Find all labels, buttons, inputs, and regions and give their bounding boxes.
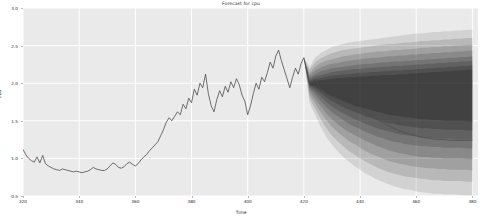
y-axis-tick-labels: 0.51.01.52.02.53.0 [0,0,20,221]
x-tick-label: 400 [244,199,252,204]
y-tick-label: 3.0 [0,6,18,11]
x-tick-label: 460 [412,199,420,204]
x-tick-label: 340 [75,199,83,204]
x-tick-label: 420 [300,199,308,204]
y-tick-mark [21,8,23,9]
x-tick-mark [192,196,193,198]
x-tick-label: 320 [19,199,27,204]
y-tick-mark [21,158,23,159]
x-tick-label: 440 [356,199,364,204]
x-tick-mark [248,196,249,198]
x-tick-mark [416,196,417,198]
y-tick-label: 0.5 [0,194,18,199]
x-tick-mark [79,196,80,198]
chart-canvas [23,8,478,196]
x-tick-mark [135,196,136,198]
y-tick-label: 2.0 [0,81,18,86]
y-tick-mark [21,46,23,47]
y-tick-label: 2.5 [0,43,18,48]
x-tick-label: 380 [188,199,196,204]
x-tick-label: 360 [131,199,139,204]
y-tick-label: 1.0 [0,156,18,161]
x-tick-mark [23,196,24,198]
chart-title: Forecast for cpu [0,1,482,6]
y-tick-mark [21,121,23,122]
x-tick-mark [304,196,305,198]
x-tick-mark [360,196,361,198]
x-tick-label: 480 [468,199,476,204]
x-tick-mark [472,196,473,198]
confidence-bands [304,30,473,195]
y-tick-label: 1.5 [0,118,18,123]
y-tick-mark [21,83,23,84]
series-history [23,50,304,173]
x-axis-label: Time [0,210,482,215]
plot-area [23,8,478,196]
figure: Forecast for cpu cpu Time 0.51.01.52.02.… [0,0,482,221]
